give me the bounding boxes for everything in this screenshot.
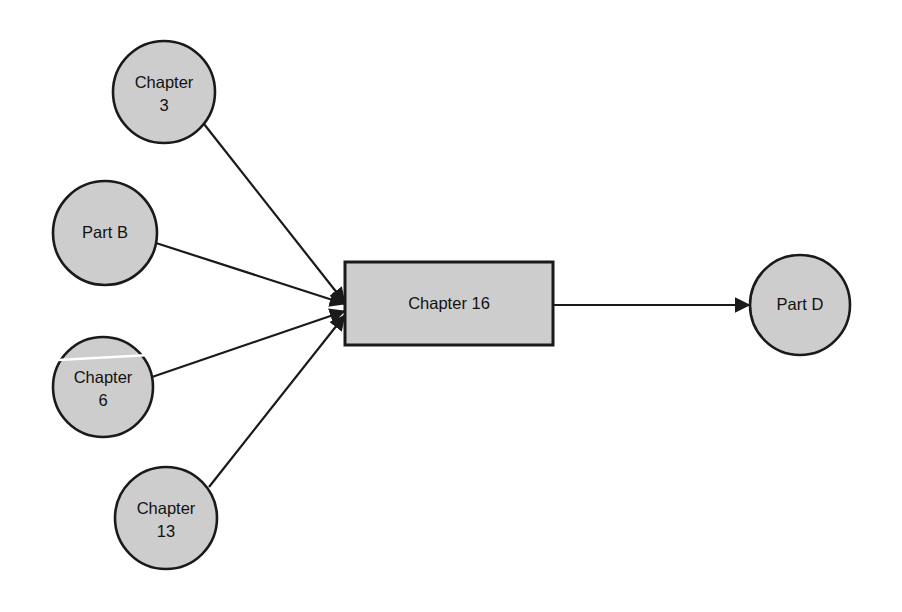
node-part-d[interactable]: Part D xyxy=(750,255,850,355)
chapter-16-label: Chapter 16 xyxy=(408,294,490,312)
chapter-13-circle[interactable] xyxy=(115,467,217,569)
chapter-3-label-line-2: 3 xyxy=(159,96,168,114)
chapter-6-label-line-2: 6 xyxy=(98,391,107,409)
node-chapter-16[interactable]: Chapter 16 xyxy=(345,262,553,345)
chapter-6-circle[interactable] xyxy=(53,337,153,437)
edge-chapter-6-to-chapter-16[interactable] xyxy=(152,311,345,377)
part-d-label: Part D xyxy=(777,295,824,313)
part-b-label-line-1: Part B xyxy=(82,223,128,241)
chapter-6-label-line-1: Chapter xyxy=(74,368,133,386)
edge-chapter-13-to-chapter-16[interactable] xyxy=(209,315,345,487)
diagram-svg: Chapter 3 Part B Chapter 6 Chapter 13 Ch… xyxy=(0,0,902,612)
node-part-b[interactable]: Part B xyxy=(53,181,157,285)
node-chapter-3[interactable]: Chapter 3 xyxy=(113,41,215,143)
diagram-canvas: Chapter 3 Part B Chapter 6 Chapter 13 Ch… xyxy=(0,0,902,612)
chapter-3-circle[interactable] xyxy=(113,41,215,143)
chapter-3-label-line-1: Chapter xyxy=(135,73,194,91)
edge-chapter-3-to-chapter-16[interactable] xyxy=(204,124,345,303)
node-chapter-13[interactable]: Chapter 13 xyxy=(115,467,217,569)
chapter-13-label-line-2: 13 xyxy=(157,522,175,540)
chapter-13-label-line-1: Chapter xyxy=(137,499,196,517)
node-chapter-6[interactable]: Chapter 6 xyxy=(53,337,153,437)
edge-part-b-to-chapter-16[interactable] xyxy=(156,243,345,304)
